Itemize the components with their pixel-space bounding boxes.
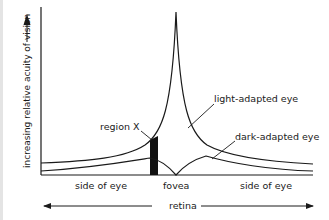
region-x-label: region X (100, 121, 140, 132)
x-label-left-side: side of eye (75, 180, 127, 191)
region-x-leader (141, 131, 152, 140)
light-adapted-label: light-adapted eye (214, 93, 298, 104)
x-label-right-side: side of eye (240, 180, 292, 191)
retina-acuity-diagram: increasing relative acuity of vision reg… (0, 0, 329, 220)
dark-adapted-curve (41, 156, 313, 175)
y-axis-label-group: increasing relative acuity of vision (22, 14, 32, 168)
light-adapted-leader (188, 104, 214, 128)
x-axis-label: retina (169, 200, 197, 211)
dark-adapted-label: dark-adapted eye (235, 131, 319, 142)
dark-adapted-leader (212, 141, 235, 159)
region-x-bar (150, 136, 158, 175)
x-label-fovea: fovea (163, 180, 189, 191)
